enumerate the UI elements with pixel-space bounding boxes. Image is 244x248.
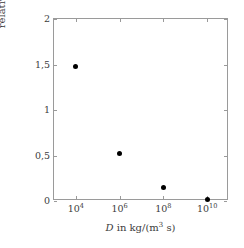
x-axis-tick-mark-top (76, 19, 77, 22)
y-axis-tick-mark (54, 201, 57, 202)
y-axis-label-text: relative Abweichung (0, 0, 7, 28)
x-axis-label-suffix: s) (163, 222, 175, 233)
data-point (73, 64, 78, 69)
y-axis-tick-label: 0 (44, 196, 50, 206)
x-axis-tick-mark (76, 196, 77, 199)
y-axis-tick-label: 1 (44, 105, 50, 115)
x-axis-label: D in kg/(m3 s) (53, 222, 228, 233)
plot-frame: 21,510,501041061081010 (53, 18, 228, 200)
x-axis-label-symbol: D (106, 222, 114, 233)
data-point (161, 185, 166, 190)
x-axis-tick-mark (120, 196, 121, 199)
x-axis-tick-mark-top (163, 19, 164, 22)
x-axis-tick-mark (163, 196, 164, 199)
x-axis-tick-label: 108 (155, 204, 171, 214)
y-axis-label: relative Abweichung ε in % (0, 0, 10, 50)
y-axis-tick-mark-right (224, 65, 227, 66)
y-axis-tick-mark (54, 156, 57, 157)
x-axis-label-text: in kg/(m (114, 222, 159, 233)
y-axis-tick-mark-right (224, 110, 227, 111)
y-axis-tick-mark-right (224, 19, 227, 20)
data-point (205, 197, 210, 202)
x-axis-tick-mark-top (207, 19, 208, 22)
x-axis-tick-label: 104 (68, 204, 84, 214)
x-axis-tick-label: 1010 (197, 204, 217, 214)
data-point (117, 151, 122, 156)
y-axis-tick-label: 2 (44, 14, 50, 24)
x-axis-tick-mark-top (120, 19, 121, 22)
chart-figure: 21,510,501041061081010 D in kg/(m3 s) re… (0, 0, 244, 248)
y-axis-tick-mark-right (224, 201, 227, 202)
plot-area: 21,510,501041061081010 (54, 19, 227, 199)
y-axis-tick-label: 0,5 (35, 151, 50, 161)
x-axis-tick-label: 106 (111, 204, 127, 214)
y-axis-tick-mark (54, 19, 57, 20)
y-axis-tick-mark-right (224, 156, 227, 157)
y-axis-tick-mark (54, 65, 57, 66)
y-axis-tick-mark (54, 110, 57, 111)
y-axis-tick-label: 1,5 (35, 60, 50, 70)
